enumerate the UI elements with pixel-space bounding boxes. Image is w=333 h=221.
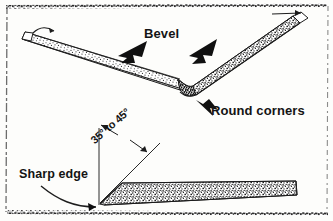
- sharp-edge-arrow: [41, 186, 96, 211]
- sharp-edge-label: Sharp edge: [19, 167, 88, 181]
- angle-arrow-lower: [130, 140, 147, 152]
- bevel-arrow-right: [189, 39, 217, 64]
- bevel-label: Bevel: [144, 26, 179, 41]
- round-corners-label: Round corners: [211, 103, 305, 118]
- figure-canvas: Bevel Round corners Sharp edge 35° to 45…: [0, 0, 333, 221]
- flat-blade: [100, 181, 297, 205]
- bevel-arrow-left: [118, 41, 147, 63]
